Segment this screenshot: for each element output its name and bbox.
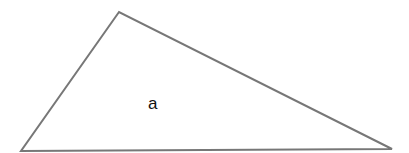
triangle-label: a [148, 94, 158, 113]
triangle [21, 12, 392, 151]
diagram-canvas: a [0, 0, 409, 153]
